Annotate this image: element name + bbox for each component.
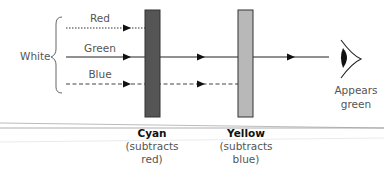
brace-icon (51, 17, 62, 93)
yellow-filter-note-line1: (subtracts (219, 141, 272, 152)
eye-icon (341, 40, 361, 78)
cyan-filter-note-line1: (subtracts (125, 141, 178, 152)
yellow-filter-note-line2: blue) (233, 154, 260, 165)
result-label-line1: Appears (334, 85, 377, 96)
ray-label-red: Red (90, 13, 110, 24)
red-ray (66, 25, 145, 32)
cyan-filter-label: Cyan (137, 128, 166, 139)
ray-label-green: Green (84, 43, 116, 54)
yellow-filter-label: Yellow (227, 128, 265, 139)
yellow-filter (238, 10, 253, 117)
cyan-filter (145, 10, 160, 117)
ray-label-blue: Blue (88, 69, 111, 80)
divider-line (0, 123, 384, 128)
divider-line (0, 138, 384, 142)
white-light-label: White (20, 51, 51, 62)
green-ray (66, 54, 329, 61)
color-filter-diagram: White Red Green Blue Appears green Cyan … (0, 0, 384, 170)
cyan-filter-note-line2: red) (141, 154, 162, 165)
result-label-line2: green (341, 99, 371, 110)
